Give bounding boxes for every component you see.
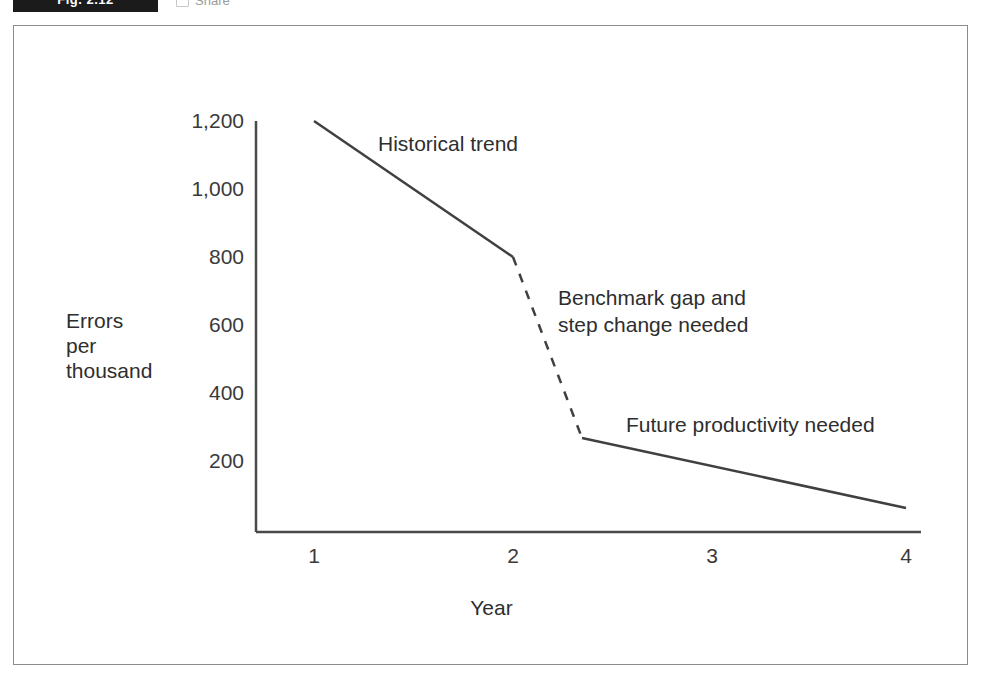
annotation-benchmark-gap-line-1: Benchmark gap and [558, 284, 748, 311]
x-tick-label-1: 1 [284, 544, 344, 568]
x-tick-label-3: 3 [682, 544, 742, 568]
x-tick-label-4: 4 [876, 544, 936, 568]
annotation-benchmark-gap-line-2: step change needed [558, 311, 748, 338]
annotation-historical-trend: Historical trend [378, 130, 518, 157]
annotation-benchmark-gap: Benchmark gap and step change needed [558, 284, 748, 338]
annotation-future-productivity: Future productivity needed [626, 411, 875, 438]
y-tick-label-400: 400 [124, 381, 244, 405]
annotation-future-productivity-line-1: Future productivity needed [626, 411, 875, 438]
annotation-historical-trend-line-1: Historical trend [378, 130, 518, 157]
y-axis-title: Errors per thousand [66, 308, 152, 383]
y-tick-label-800: 800 [124, 245, 244, 269]
y-tick-label-200: 200 [124, 449, 244, 473]
y-tick-label-1000: 1,000 [124, 177, 244, 201]
share-button[interactable]: Share [176, 0, 230, 10]
y-axis-title-line-2: per [66, 333, 152, 358]
y-axis-title-line-3: thousand [66, 358, 152, 383]
share-label: Share [195, 0, 230, 8]
series-line-future-productivity [582, 438, 906, 508]
header-strip: Fig. 2.12 Share [0, 0, 981, 18]
share-box-icon [176, 0, 189, 7]
x-axis-title: Year [14, 596, 969, 620]
chart-panel: 1,200 1,000 800 600 400 200 1 2 3 4 Erro… [13, 25, 968, 665]
y-axis-title-line-1: Errors [66, 308, 152, 333]
y-tick-label-1200: 1,200 [124, 109, 244, 133]
exhibit-badge: Fig. 2.12 [13, 0, 158, 12]
x-tick-label-2: 2 [483, 544, 543, 568]
